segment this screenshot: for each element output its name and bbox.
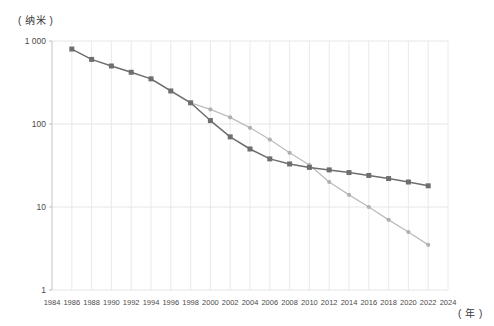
data-point-marker: [406, 180, 411, 185]
data-point-marker: [387, 218, 391, 222]
data-point-marker: [426, 243, 430, 247]
x-tick-label: 1996: [162, 298, 179, 307]
data-point-marker: [267, 156, 272, 161]
x-tick-label: 2014: [341, 298, 358, 307]
vertical-gridlines: [52, 41, 448, 290]
x-tick-label: 2022: [420, 298, 437, 307]
data-point-marker: [288, 151, 292, 155]
x-tick-label: 2000: [202, 298, 219, 307]
x-tick-label: 1988: [83, 298, 100, 307]
data-point-marker: [327, 180, 331, 184]
y-tick-label: 1 000: [25, 36, 47, 46]
data-point-marker: [367, 205, 371, 209]
data-point-marker: [228, 115, 232, 119]
x-axis-ticks: 1984198619881990199219941996199820002002…: [44, 298, 457, 307]
x-tick-label: 2018: [380, 298, 397, 307]
data-point-marker: [287, 161, 292, 166]
x-tick-label: 2012: [321, 298, 338, 307]
data-point-marker: [268, 137, 272, 141]
x-tick-label: 2010: [301, 298, 318, 307]
x-tick-label: 1986: [63, 298, 80, 307]
data-point-marker: [386, 176, 391, 181]
x-tick-label: 1998: [182, 298, 199, 307]
data-point-marker: [406, 230, 410, 234]
x-tick-label: 1984: [44, 298, 61, 307]
y-tick-label: 100: [32, 119, 46, 129]
data-point-marker: [69, 47, 74, 52]
x-tick-label: 2004: [242, 298, 259, 307]
x-tick-label: 1992: [123, 298, 140, 307]
x-tick-label: 1990: [103, 298, 120, 307]
data-point-marker: [89, 57, 94, 62]
data-point-marker: [248, 126, 252, 130]
y-tick-label: 10: [37, 202, 47, 212]
data-point-marker: [168, 88, 173, 93]
data-point-marker: [188, 100, 193, 105]
data-point-marker: [347, 193, 351, 197]
x-tick-label: 2020: [400, 298, 417, 307]
y-axis-ticks: 1 000100101: [25, 36, 52, 295]
x-tick-label: 2006: [261, 298, 278, 307]
x-tick-label: 2008: [281, 298, 298, 307]
data-point-marker: [228, 134, 233, 139]
data-point-marker: [366, 173, 371, 178]
data-point-marker: [149, 76, 154, 81]
chart-container: ( 纳米 ) ( 年 ) 1 000100101 198419861988199…: [0, 0, 494, 326]
data-point-marker: [327, 167, 332, 172]
data-point-marker: [208, 107, 212, 111]
data-point-marker: [248, 146, 253, 151]
x-tick-label: 1994: [143, 298, 160, 307]
chart-plot-area: 1 000100101 1984198619881990199219941996…: [0, 0, 494, 326]
x-tick-label: 2002: [222, 298, 239, 307]
y-tick-label: 1: [41, 285, 46, 295]
data-point-marker: [208, 118, 213, 123]
data-point-marker: [129, 70, 134, 75]
data-point-marker: [307, 165, 312, 170]
data-point-marker: [109, 63, 114, 68]
x-tick-label: 2016: [360, 298, 377, 307]
x-tick-label: 2024: [440, 298, 457, 307]
data-point-marker: [347, 170, 352, 175]
data-point-marker: [426, 183, 431, 188]
